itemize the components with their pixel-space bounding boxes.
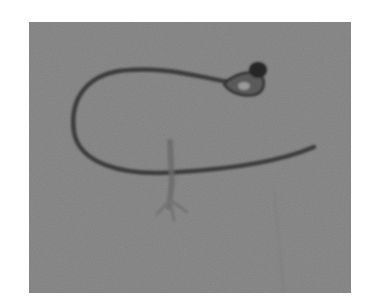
catheter-photo <box>29 22 351 293</box>
catheter-illustration <box>29 22 351 293</box>
fabric-background <box>29 22 351 293</box>
